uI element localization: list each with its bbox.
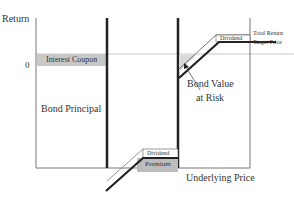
zero-label: 0 (25, 61, 30, 70)
target-price-label: Target Price (253, 39, 282, 45)
total-return-payoff-line (179, 42, 276, 78)
interest-coupon-label: Interest Coupon (46, 56, 97, 64)
x-axis-label: Underlying Price (186, 173, 255, 183)
total-return-label: Total Return (253, 30, 283, 36)
bond-value-label: Bond Value (187, 79, 234, 89)
at-risk-label: at Risk (196, 93, 224, 103)
y-axis-label: Return (2, 14, 29, 24)
dividend-label-top: Dividend (220, 35, 242, 41)
dividend-label-bottom: Dividend (147, 150, 169, 156)
bond-principal-label: Bond Principal (41, 104, 101, 114)
premium-label: Premium (145, 161, 171, 168)
